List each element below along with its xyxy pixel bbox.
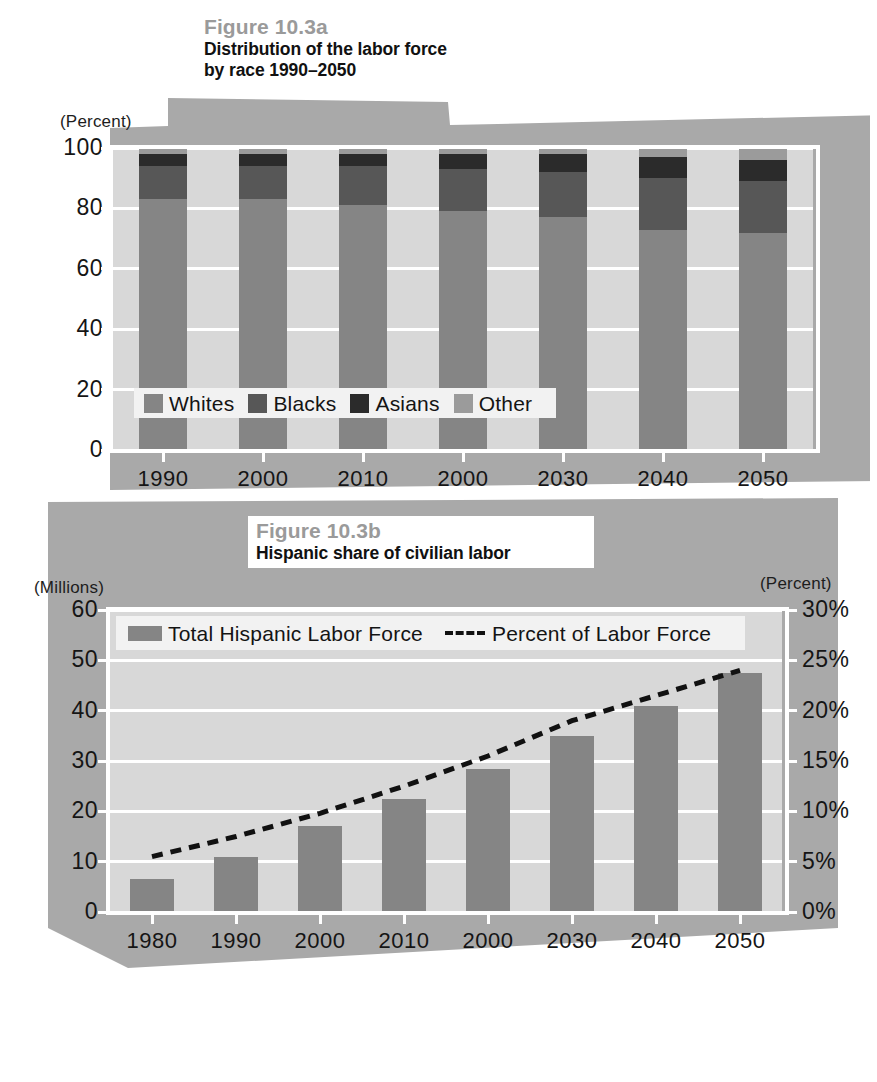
figure-a-legend-swatch-whites [144,394,163,413]
figure-b-ytick-right-20: 20% [802,699,877,722]
figure-b-legend-item-bars: Total Hispanic Labor Force [128,623,423,644]
figure-b-ytick-left-10: 10 [32,850,98,873]
figure-b-xtick-4: 2000 [446,930,530,952]
figure-a-ytick-0: 0 [41,438,103,461]
figure-a-top-rule [109,145,817,149]
figure-b-ytick-right-15: 15% [802,749,877,772]
figure-b-number: Figure 10.3b [256,518,586,543]
figure-b-top-rule [106,607,786,611]
figure-a-segment-asians-0 [139,154,187,166]
figure-a-segment-asians-2 [339,154,387,166]
figure-b-ytick-right-0: 0% [802,900,877,923]
figure-b-xtick-2: 2000 [278,930,362,952]
figure-a-segment-blacks-1 [239,166,287,199]
figure-b-xtick-6: 2040 [614,930,698,952]
figure-a-segment-blacks-0 [139,166,187,199]
figure-a-legend-swatch-other [454,394,473,413]
figure-a-x-axis-line [109,449,819,453]
figure-a-legend-swatch-blacks [248,394,267,413]
figure-b-ytick-left-30: 30 [32,749,98,772]
figure-a-y-axis-line [109,145,113,453]
figure-b-ytick-right-5: 5% [802,850,877,873]
figure-b-legend-label-bars: Total Hispanic Labor Force [168,623,423,644]
figure-a-xtick-0: 1990 [113,468,213,490]
figure-a-segment-asians-3 [439,154,487,169]
figure-a-segment-other-5 [639,148,687,157]
figure-a-legend-label-whites: Whites [169,393,234,414]
figure-b-ytick-right-25: 25% [802,648,877,671]
figure-b-xtick-0: 1980 [110,930,194,952]
figure-a-ytick-40: 40 [41,317,103,340]
figure-b-ytick-left-40: 40 [32,699,98,722]
figure-b-legend-swatch [128,626,162,641]
figure-a-right-rule [816,145,820,453]
figure-a-xtick-4: 2030 [513,468,613,490]
figure-b-ytick-left-0: 0 [32,900,98,923]
figure-b-ytick-left-60: 60 [32,598,98,621]
figure-a-title-block: Figure 10.3a Distribution of the labor f… [196,12,512,85]
figure-b-ytick-left-50: 50 [32,648,98,671]
figure-a-number: Figure 10.3a [204,14,504,39]
figure-a-ytick-60: 60 [41,257,103,280]
figure-a-segment-blacks-5 [639,178,687,229]
figure-a-xtick-1: 2000 [213,468,313,490]
figure-b-xtick-3: 2010 [362,930,446,952]
figure-a-segment-blacks-6 [739,181,787,232]
figure-a-segment-whites-5 [639,230,687,450]
figure-a-xtick-2: 2010 [313,468,413,490]
figure-b-title-block: Figure 10.3b Hispanic share of civilian … [248,516,594,568]
figure-a-segment-blacks-2 [339,166,387,205]
figure-b-xtick-7: 2050 [698,930,782,952]
figure-a-legend-label-blacks: Blacks [273,393,336,414]
figure-b-legend-dash-icon [445,631,485,635]
figure-b-title-line1: Hispanic share of civilian labor [256,543,586,564]
figure-b-xtick-1: 1990 [194,930,278,952]
figure-a-legend-item-blacks: Blacks [248,393,336,414]
figure-b-legend-label-line: Percent of Labor Force [492,623,711,644]
figure-a-legend-label-other: Other [479,393,533,414]
figure-b-percent-line [110,610,782,912]
figure-a-y-axis-caption: (Percent) [60,112,132,132]
figure-b-ytick-right-30: 30% [802,598,877,621]
figure-a-legend: WhitesBlacksAsiansOther [134,388,556,418]
figure-b-ytick-right-10: 10% [802,799,877,822]
figure-b-y-axis-caption-right: (Percent) [760,574,832,594]
figure-a-segment-blacks-4 [539,172,587,217]
figure-a-legend-item-other: Other [454,393,533,414]
figure-a-segment-whites-6 [739,233,787,450]
figure-b-ytick-left-20: 20 [32,799,98,822]
figure-a-ytick-20: 20 [41,378,103,401]
figure-b-y-axis-line [106,607,110,915]
figure-a-segment-other-6 [739,148,787,160]
figure-a-xtick-3: 2000 [413,468,513,490]
figure-b-legend: Total Hispanic Labor ForcePercent of Lab… [116,616,745,650]
figure-a-xtick-6: 2050 [713,468,813,490]
figure-a-ytick-100: 100 [41,136,103,159]
figure-a-segment-asians-6 [739,160,787,181]
figure-b-y-axis-caption-left: (Millions) [34,578,104,598]
figure-b-right-axis-line [785,607,789,915]
figure-a-title-line2: by race 1990–2050 [204,60,504,81]
figure-a-xtick-5: 2040 [613,468,713,490]
figure-b-x-axis-line [106,911,788,915]
figure-b-xtick-5: 2030 [530,930,614,952]
figure-a-legend-swatch-asians [350,394,369,413]
figure-a-segment-asians-4 [539,154,587,172]
figure-b-plot-area [110,610,782,912]
figure-a-bar-6 [739,148,787,450]
figure-a-bar-5 [639,148,687,450]
figure-a-legend-item-whites: Whites [144,393,234,414]
figure-a-legend-label-asians: Asians [375,393,439,414]
figure-page: Figure 10.3a Distribution of the labor f… [0,0,877,1082]
figure-b-legend-item-line: Percent of Labor Force [445,623,711,644]
figure-a-title-line1: Distribution of the labor force [204,39,504,60]
figure-a-segment-blacks-3 [439,169,487,211]
figure-a-segment-asians-1 [239,154,287,166]
figure-a-legend-item-asians: Asians [350,393,439,414]
figure-a-ytick-80: 80 [41,196,103,219]
figure-a-segment-asians-5 [639,157,687,178]
